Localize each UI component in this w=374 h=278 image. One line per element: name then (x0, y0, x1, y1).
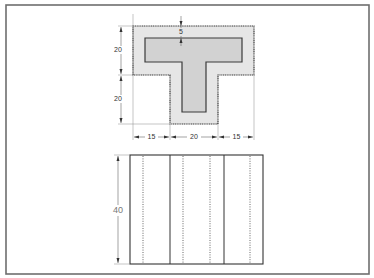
front-view-outline (130, 155, 263, 264)
dim-label-flange-height: 20 (114, 46, 122, 53)
arrow-icon (171, 136, 176, 139)
dim-label-stem-width: 20 (190, 133, 198, 140)
top-view: 20 20 5 15 20 15 (112, 14, 254, 141)
arrow-icon (120, 118, 123, 123)
dim-label-stem-height: 20 (114, 95, 122, 102)
dim-label-right-overhang: 15 (233, 133, 241, 140)
arrow-icon (180, 21, 183, 26)
arrow-icon (120, 27, 123, 32)
arrow-icon (134, 136, 139, 139)
dim-label-front-height: 40 (113, 205, 123, 215)
dim-label-left-overhang: 15 (148, 133, 156, 140)
arrow-icon (117, 258, 120, 263)
technical-drawing: 20 20 5 15 20 15 (0, 0, 374, 278)
arrow-icon (212, 136, 217, 139)
arrow-icon (164, 136, 169, 139)
arrow-icon (120, 69, 123, 74)
dim-label-wall-thickness: 5 (179, 28, 183, 35)
arrow-icon (248, 136, 253, 139)
arrow-icon (117, 156, 120, 161)
arrow-icon (120, 76, 123, 81)
front-view: 40 (110, 155, 263, 264)
arrow-icon (219, 136, 224, 139)
